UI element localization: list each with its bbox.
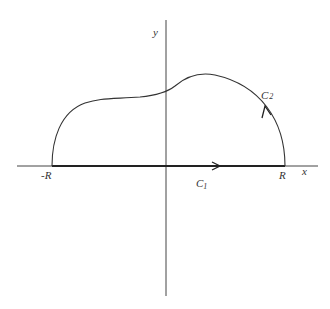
c2-label: C2	[261, 89, 273, 101]
x-axis-label: x	[301, 165, 307, 177]
contour-diagram: y x -R R C1 C2	[0, 0, 330, 309]
y-axis-label: y	[152, 26, 158, 38]
point-neg-r-label: -R	[41, 169, 52, 181]
point-r-label: R	[278, 169, 286, 181]
c2-arrow-icon	[262, 106, 271, 118]
contour-c2	[52, 74, 285, 166]
c1-label: C1	[196, 177, 207, 191]
